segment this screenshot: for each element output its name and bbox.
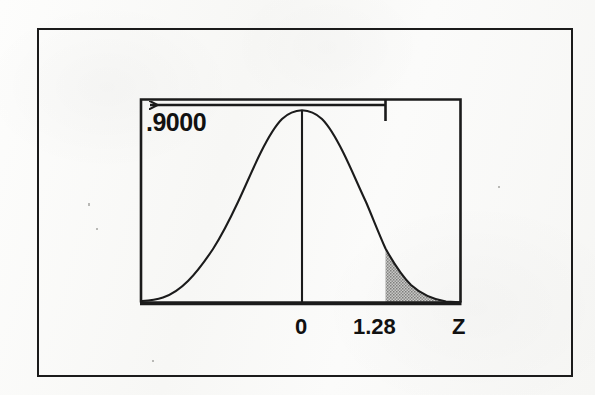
- x-tick-label-1-28: 1.28: [353, 316, 396, 338]
- figure-page: .9000 0 1.28 Z: [0, 0, 595, 395]
- cumulative-area-label: .9000: [146, 110, 206, 135]
- x-tick-label-zero: 0: [295, 316, 307, 338]
- x-axis-title: Z: [452, 316, 465, 338]
